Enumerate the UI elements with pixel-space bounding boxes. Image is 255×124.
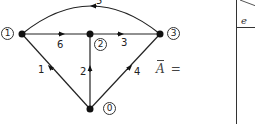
matrix-header-rule — [236, 27, 255, 28]
edge-label-3: 3 — [121, 38, 127, 48]
node-label-3: 3 — [167, 27, 180, 40]
node-label-0: 0 — [103, 102, 116, 115]
equals-sign: = — [171, 62, 181, 76]
node-label-1: 1 — [1, 27, 14, 40]
edge-label-5: 5 — [96, 0, 102, 6]
edge-label-4: 4 — [134, 67, 140, 77]
node-2-dot — [87, 31, 94, 38]
node-1-dot — [19, 31, 26, 38]
edge-label-2: 2 — [80, 67, 86, 77]
matrix-column-header: e — [241, 15, 247, 26]
node-label-2: 2 — [94, 38, 107, 51]
edge-label-1: 1 — [38, 65, 44, 75]
edge-label-6: 6 — [57, 40, 63, 50]
matrix-corner-diagonal — [240, 0, 255, 6]
edge-5 — [22, 6, 160, 34]
matrix-symbol: A — [156, 62, 165, 76]
directed-graph — [0, 0, 236, 124]
node-0-dot — [87, 106, 94, 113]
node-3-dot — [157, 31, 164, 38]
matrix-equation: A= — [156, 62, 181, 76]
